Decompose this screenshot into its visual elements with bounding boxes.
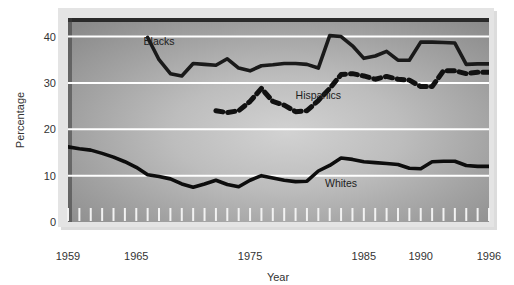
chart-container: BlacksHispanicsWhites 010203040 19591965… [0, 0, 514, 285]
y-tick-label-0: 0 [50, 216, 56, 228]
x-axis-title: Year [267, 271, 290, 283]
x-tick-label-1985: 1985 [352, 250, 376, 262]
y-axis-title: Percentage [14, 92, 26, 148]
plot-left-border [68, 18, 72, 222]
x-tick-label-1990: 1990 [408, 250, 432, 262]
x-tick-label-1959: 1959 [56, 250, 80, 262]
y-tick-label-30: 30 [44, 77, 56, 89]
series-label-blacks: Blacks [144, 35, 175, 47]
y-tick-label-40: 40 [44, 31, 56, 43]
y-tick-label-10: 10 [44, 170, 56, 182]
x-tick-label-1975: 1975 [238, 250, 262, 262]
percentage-by-race-line-chart: BlacksHispanicsWhites 010203040 19591965… [0, 0, 514, 285]
x-tick-label-1965: 1965 [124, 250, 148, 262]
y-tick-label-20: 20 [44, 123, 56, 135]
plot-area-background [68, 18, 489, 222]
plot-top-border [68, 18, 489, 22]
series-label-whites: Whites [325, 177, 357, 189]
series-label-hispanics: Hispanics [296, 89, 342, 101]
x-tick-label-1996: 1996 [477, 250, 501, 262]
